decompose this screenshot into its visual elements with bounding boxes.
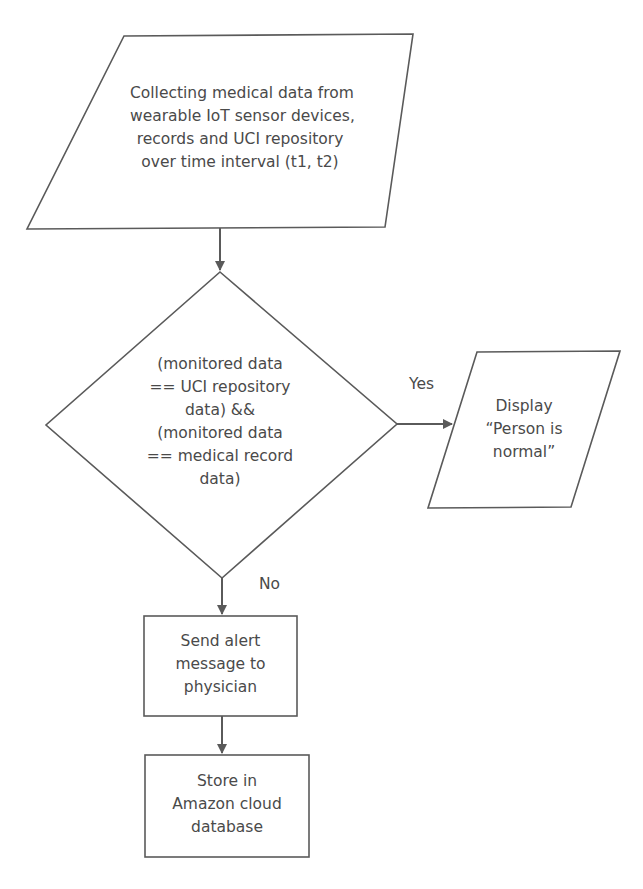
decision-condition-label: (monitored data == UCI repository data) …: [130, 353, 310, 491]
decision-line-5: == medical record: [130, 445, 310, 468]
decision-line-6: data): [130, 468, 310, 491]
store-line-3: database: [145, 816, 309, 839]
store-line-2: Amazon cloud: [145, 793, 309, 816]
decision-line-1: (monitored data: [130, 353, 310, 376]
alert-line-3: physician: [144, 676, 297, 699]
collect-data-label: Collecting medical data from wearable Io…: [130, 82, 350, 174]
alert-line-1: Send alert: [144, 630, 297, 653]
decision-line-3: data) &&: [130, 399, 310, 422]
display-line-1: Display: [474, 395, 574, 418]
display-line-2: “Person is: [474, 418, 574, 441]
yes-edge-label: Yes: [409, 375, 434, 393]
store-line-1: Store in: [145, 770, 309, 793]
collect-line-3: records and UCI repository: [130, 128, 350, 151]
no-edge-label: No: [259, 575, 280, 593]
display-line-3: normal”: [474, 441, 574, 464]
decision-line-4: (monitored data: [130, 422, 310, 445]
alert-line-2: message to: [144, 653, 297, 676]
collect-line-2: wearable IoT sensor devices,: [130, 105, 350, 128]
display-normal-label: Display “Person is normal”: [474, 395, 574, 464]
send-alert-label: Send alert message to physician: [144, 630, 297, 699]
decision-line-2: == UCI repository: [130, 376, 310, 399]
collect-line-4: over time interval (t1, t2): [130, 151, 350, 174]
store-cloud-label: Store in Amazon cloud database: [145, 770, 309, 839]
collect-line-1: Collecting medical data from: [130, 82, 350, 105]
